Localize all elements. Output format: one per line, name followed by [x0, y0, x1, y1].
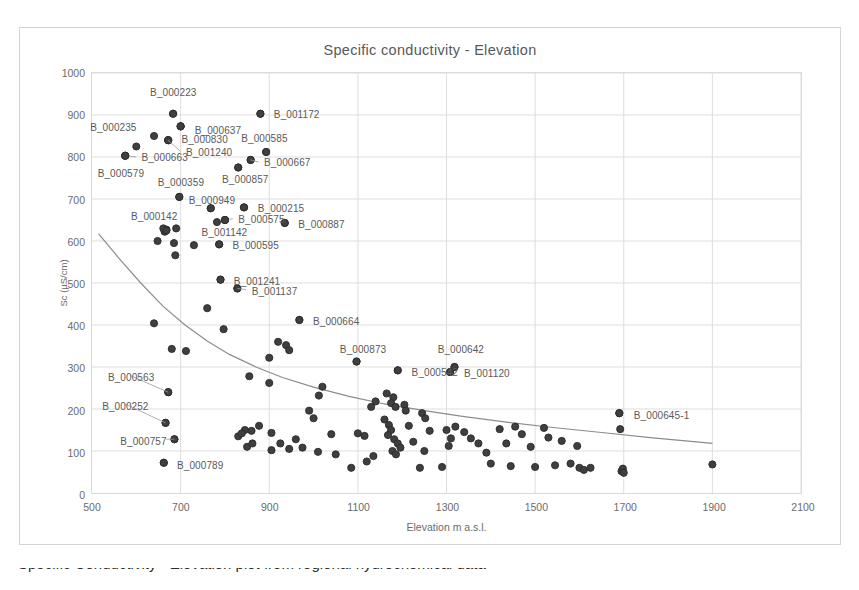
data-point-label: B_000873 — [340, 344, 386, 355]
data-point — [190, 242, 197, 249]
data-point — [545, 434, 552, 441]
label-leader-line — [168, 140, 180, 151]
data-point — [507, 463, 514, 470]
x-axis-tick-label: 1900 — [702, 501, 725, 513]
data-point-label: B_000563 — [108, 372, 154, 383]
data-point-labeled — [170, 110, 177, 117]
data-point-label: B_000757 — [120, 435, 166, 446]
data-point-labeled — [235, 164, 242, 171]
data-point — [372, 398, 379, 405]
y-axis-tick-label: 100 — [67, 447, 85, 459]
data-point — [620, 469, 627, 476]
data-point — [255, 422, 262, 429]
data-point — [709, 461, 716, 468]
data-point-labeled — [217, 276, 224, 283]
data-point-label: B_000664 — [313, 316, 359, 327]
data-point — [405, 422, 412, 429]
data-point — [421, 447, 428, 454]
data-point — [292, 436, 299, 443]
data-point-label: B_000667 — [264, 157, 310, 168]
data-point — [277, 440, 284, 447]
y-axis-tick-label: 1000 — [62, 67, 85, 79]
data-point-labeled — [247, 156, 254, 163]
data-point-label: B_001240 — [186, 146, 232, 157]
y-axis-tick-label: 700 — [67, 194, 85, 206]
data-point — [422, 415, 429, 422]
data-point — [213, 219, 220, 226]
plot-area: 0100200300400500600700800900100050070090… — [91, 72, 802, 494]
y-axis-tick-label: 0 — [79, 489, 85, 501]
data-point-labeled — [616, 410, 623, 417]
data-point-label: B_000887 — [298, 218, 344, 229]
data-point — [383, 390, 390, 397]
data-point — [182, 347, 189, 354]
y-axis-tick-label: 600 — [67, 236, 85, 248]
data-point-label: B_000215 — [258, 203, 304, 214]
data-point — [392, 451, 399, 458]
data-point — [518, 431, 525, 438]
data-point — [315, 392, 322, 399]
chart-title: Specific conductivity - Elevation — [20, 42, 840, 58]
data-point — [332, 451, 339, 458]
document-caption-clipped: Specific Conductivity - Elevation plot f… — [18, 568, 838, 586]
data-point — [266, 354, 273, 361]
data-point-label: B_001137 — [252, 285, 298, 296]
data-point-labeled — [394, 367, 401, 374]
data-point-labeled — [216, 241, 223, 248]
data-point-label: B_000252 — [102, 400, 148, 411]
x-axis-tick-label: 900 — [261, 501, 279, 513]
data-point — [266, 379, 273, 386]
data-point — [392, 403, 399, 410]
data-point-label: B_000789 — [177, 459, 223, 470]
data-point — [384, 431, 391, 438]
data-point-label: B_000663 — [141, 152, 187, 163]
data-point — [319, 383, 326, 390]
data-point — [410, 438, 417, 445]
x-axis-tick-label: 1100 — [347, 501, 370, 513]
data-point — [426, 427, 433, 434]
data-point-label: B_000595 — [233, 240, 279, 251]
data-point — [249, 440, 256, 447]
data-point — [587, 464, 594, 471]
x-axis-tick-label: 700 — [172, 501, 190, 513]
data-point-label: B_000359 — [158, 176, 204, 187]
data-point-labeled — [353, 358, 360, 365]
caption-text: Specific Conductivity - Elevation plot f… — [18, 568, 838, 572]
data-point — [310, 415, 317, 422]
data-point — [617, 426, 624, 433]
data-point-label: B_000830 — [181, 134, 227, 145]
data-point — [246, 373, 253, 380]
data-point — [170, 240, 177, 247]
x-axis-tick-label: 2100 — [791, 501, 814, 513]
y-axis-tick-label: 300 — [67, 362, 85, 374]
data-point — [503, 440, 510, 447]
data-point — [416, 464, 423, 471]
data-point — [306, 407, 313, 414]
data-point — [467, 435, 474, 442]
x-axis-tick-label: 1700 — [614, 501, 637, 513]
y-axis-tick-label: 500 — [67, 278, 85, 290]
data-point-label: B_001120 — [464, 368, 510, 379]
data-point-label: B_001172 — [274, 108, 320, 119]
data-point — [173, 225, 180, 232]
data-point-labeled — [263, 148, 270, 155]
data-point — [551, 462, 558, 469]
data-point — [172, 252, 179, 259]
x-axis-tick-label: 1300 — [436, 501, 459, 513]
data-point — [168, 345, 175, 352]
x-axis-tick-label: 500 — [83, 501, 101, 513]
data-point — [248, 427, 255, 434]
data-point — [445, 442, 452, 449]
y-axis-tick-label: 400 — [67, 320, 85, 332]
data-point-labeled — [257, 110, 264, 117]
data-point — [452, 423, 459, 430]
data-point — [512, 423, 519, 430]
data-point-label: B_000575 — [238, 214, 284, 225]
data-point — [483, 449, 490, 456]
data-point — [363, 458, 370, 465]
data-point — [361, 432, 368, 439]
data-point-labeled — [296, 316, 303, 323]
data-point-label: B_000949 — [189, 194, 235, 205]
data-point-label: B_000142 — [131, 211, 177, 222]
data-point-label: B_000223 — [150, 86, 196, 97]
